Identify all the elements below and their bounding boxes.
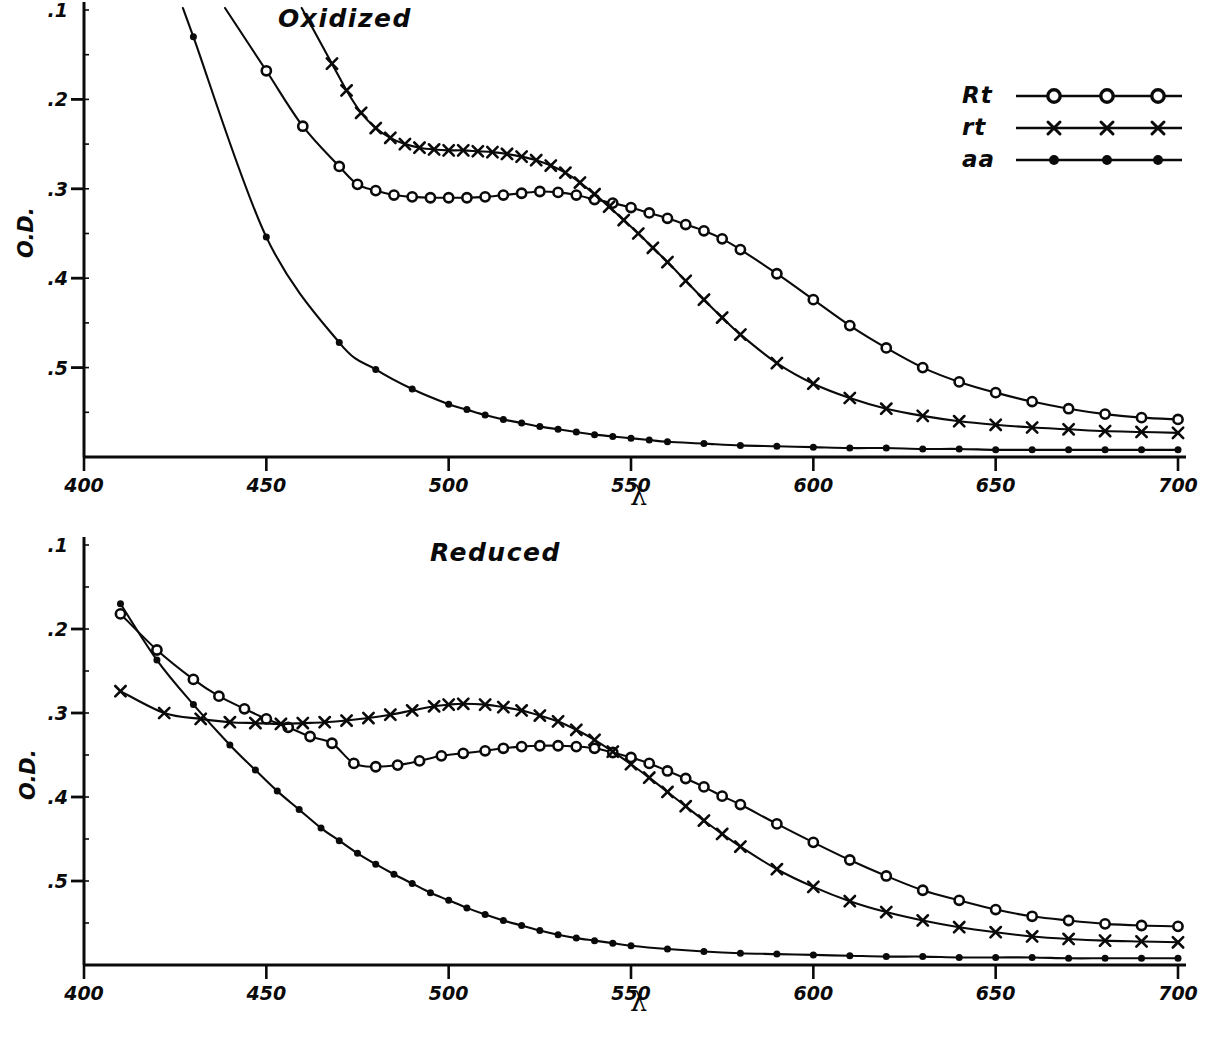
data-series-Rt [116, 609, 1183, 931]
x-tick-label: 500 [429, 474, 469, 496]
x-tick-label: 600 [793, 474, 833, 496]
y-axis-ticks [71, 545, 89, 923]
y-tick-label: .2 [32, 618, 68, 640]
x-axis-ticks [84, 965, 1178, 979]
y-tick-label: .4 [32, 786, 68, 808]
x-tick-label: 450 [246, 474, 286, 496]
reduced-panel-title: Reduced [430, 538, 561, 567]
x-tick-label: 550 [611, 474, 651, 496]
x-tick-label: 700 [1158, 474, 1198, 496]
y-tick-label: .1 [32, 0, 68, 21]
absorption-spectra-figure: Oxidized O.D. λ Rt rt [0, 0, 1220, 1045]
y-tick-label: .4 [32, 267, 68, 289]
x-tick-label: 450 [246, 982, 286, 1004]
x-tick-label: 650 [976, 474, 1016, 496]
x-tick-label: 400 [64, 474, 104, 496]
y-tick-label: .2 [32, 88, 68, 110]
x-tick-label: 550 [611, 982, 651, 1004]
y-tick-label: .1 [32, 534, 68, 556]
reduced-plot-area [0, 0, 1220, 1045]
x-tick-label: 500 [429, 982, 469, 1004]
axis-lines [84, 537, 1186, 965]
x-tick-label: 400 [64, 982, 104, 1004]
x-tick-label: 650 [976, 982, 1016, 1004]
data-series-aa [117, 600, 1182, 961]
x-tick-label: 600 [793, 982, 833, 1004]
x-tick-label: 700 [1158, 982, 1198, 1004]
y-tick-label: .5 [32, 870, 68, 892]
y-tick-label: .3 [32, 702, 68, 724]
data-series-rt [115, 686, 1183, 948]
y-tick-label: .3 [32, 178, 68, 200]
y-tick-label: .5 [32, 357, 68, 379]
